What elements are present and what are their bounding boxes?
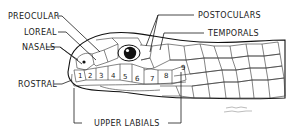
label-loreal: LOREAL (24, 28, 57, 37)
label-nasals: NASALS (22, 43, 56, 52)
labial-number-4: 4 (111, 72, 116, 80)
label-postoculars: POSTOCULARS (198, 11, 261, 20)
artist-signature (224, 107, 252, 112)
labial-number-6: 6 (135, 75, 140, 83)
labial-number-7: 7 (150, 75, 154, 83)
labial-number-3: 3 (99, 72, 103, 80)
snake-head-diagram: 1 2 3 4 5 6 7 8 9 PREOCULAR LOREAL NASAL… (0, 0, 289, 135)
label-upper-labials: UPPER LABIALS (94, 119, 160, 128)
labial-number-2: 2 (88, 72, 92, 80)
eye (118, 45, 140, 61)
label-temporals: TEMPORALS (207, 29, 259, 38)
labial-number-1: 1 (78, 72, 82, 80)
labial-number-8: 8 (164, 72, 168, 80)
label-rostral: ROSTRAL (18, 80, 57, 89)
snake-head-illustration (68, 32, 285, 98)
labial-number-5: 5 (123, 73, 127, 81)
labial-number-9: 9 (181, 64, 185, 72)
label-preocular: PREOCULAR (8, 12, 60, 21)
